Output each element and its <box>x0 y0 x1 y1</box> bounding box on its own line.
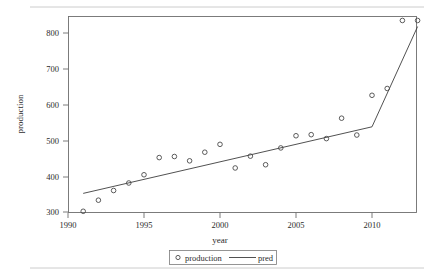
y-axis-ticks <box>63 33 69 212</box>
data-point-marker <box>96 198 101 203</box>
data-point-marker <box>309 132 314 137</box>
y-axis-tick-labels: 800 700 600 500 400 300 <box>46 28 59 217</box>
x-axis-title: year <box>212 235 228 245</box>
production-point-series <box>81 18 420 213</box>
data-point-marker <box>355 133 360 138</box>
data-point-marker <box>172 154 177 159</box>
pred-line-series <box>83 27 417 194</box>
data-point-marker <box>415 18 420 23</box>
legend-production-marker-icon <box>176 255 180 259</box>
data-point-marker <box>187 159 192 164</box>
data-point-marker <box>203 150 208 155</box>
x-tick-label-2005: 2005 <box>288 220 305 230</box>
y-tick-label-600: 600 <box>46 100 59 110</box>
x-tick-label-1995: 1995 <box>136 220 153 230</box>
x-axis-tick-labels: 1990 1995 2000 2005 2010 <box>60 220 381 230</box>
legend-pred-label: pred <box>258 253 274 263</box>
data-point-marker <box>370 93 375 98</box>
y-tick-label-800: 800 <box>46 28 59 38</box>
y-axis-title: production <box>15 94 25 133</box>
data-point-marker <box>400 18 405 23</box>
y-tick-label-300: 300 <box>46 207 59 217</box>
y-tick-label-400: 400 <box>46 172 59 182</box>
x-tick-label-1990: 1990 <box>60 220 77 230</box>
legend-production-label: production <box>185 253 223 263</box>
production-vs-year-chart: 800 700 600 500 400 300 1990 1995 2000 2… <box>0 0 436 278</box>
data-point-marker <box>142 172 147 177</box>
x-axis-ticks <box>68 213 372 219</box>
x-tick-label-2010: 2010 <box>364 220 381 230</box>
plot-frame <box>69 17 417 213</box>
chart-figure: 800 700 600 500 400 300 1990 1995 2000 2… <box>0 0 436 278</box>
data-point-marker <box>233 166 238 171</box>
data-point-marker <box>294 133 299 138</box>
pred-trend-line <box>83 27 417 194</box>
data-point-marker <box>339 116 344 121</box>
data-point-marker <box>263 162 268 167</box>
y-tick-label-700: 700 <box>46 64 59 74</box>
x-tick-label-2000: 2000 <box>212 220 229 230</box>
chart-legend: production pred <box>170 251 277 265</box>
data-point-marker <box>157 155 162 160</box>
y-tick-label-500: 500 <box>46 136 59 146</box>
data-point-marker <box>385 86 390 91</box>
data-point-marker <box>111 188 116 193</box>
data-point-marker <box>218 142 223 147</box>
